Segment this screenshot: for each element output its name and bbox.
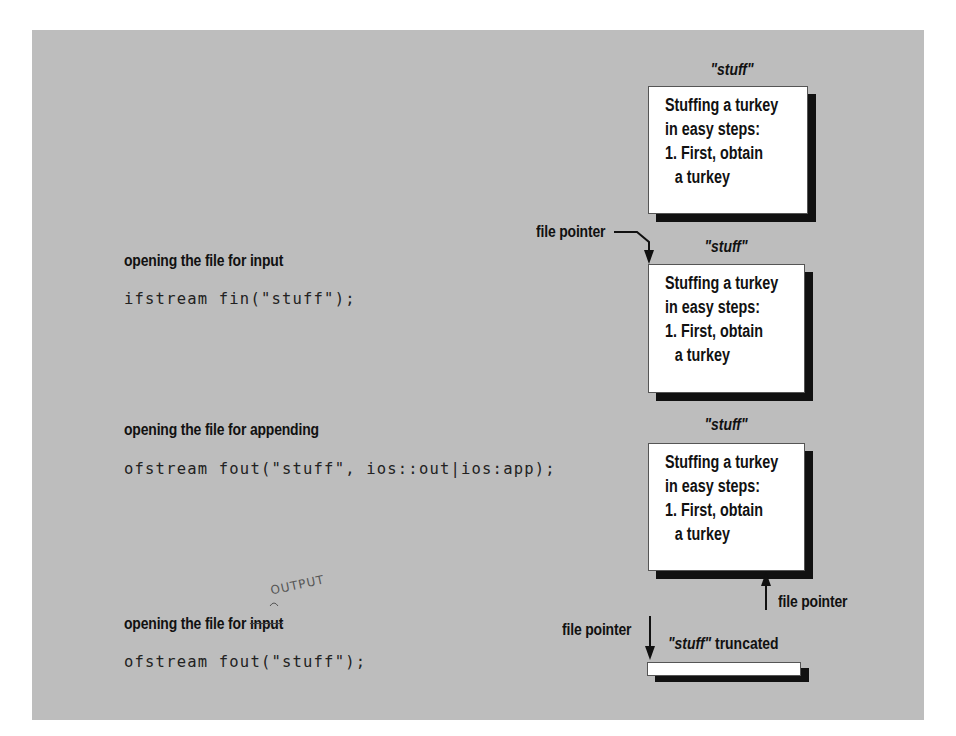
- arrow-icon: [614, 232, 654, 264]
- arrow-icon: [645, 616, 655, 660]
- caret-mark: [270, 603, 278, 606]
- arrow-icon: [761, 572, 771, 610]
- pointer-arrows: [0, 0, 956, 736]
